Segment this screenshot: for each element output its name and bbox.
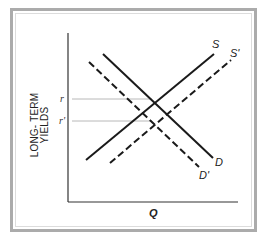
label-d: D xyxy=(215,157,223,168)
demand-curve-d-prime xyxy=(89,62,199,167)
supply-curve-s-prime xyxy=(110,60,231,163)
label-d-prime: D' xyxy=(199,170,209,181)
tick-label-r: r xyxy=(60,94,64,104)
label-s-prime: S' xyxy=(230,48,239,59)
y-axis-label-line2: YIELDS xyxy=(40,93,50,158)
tick-label-r-prime: r' xyxy=(59,116,65,126)
label-s: S xyxy=(212,39,219,50)
supply-curve-s xyxy=(86,54,214,160)
x-axis-label: Q xyxy=(149,208,158,219)
